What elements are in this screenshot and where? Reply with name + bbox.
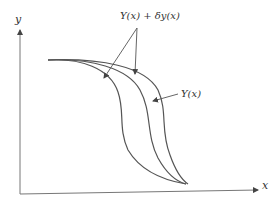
true-curve	[48, 60, 186, 184]
true-curve-label: Y(x)	[181, 89, 201, 99]
varied-curve-right	[48, 60, 188, 184]
y-axis-label: y	[15, 14, 21, 25]
varied-curve-label: Y(x) + δy(x)	[120, 11, 180, 21]
pointer-to-left-curve	[104, 28, 137, 78]
pointer-to-true-curve	[153, 94, 178, 101]
varied-curve-left	[48, 60, 186, 184]
x-axis	[20, 190, 258, 194]
axes	[20, 30, 258, 194]
curves	[48, 60, 188, 184]
x-axis-label: x	[262, 180, 268, 191]
variation-diagram: y x Y(x) + δy(x) Y(x)	[0, 0, 279, 206]
pointer-to-right-curve	[135, 28, 137, 74]
diagram-canvas	[0, 0, 279, 206]
